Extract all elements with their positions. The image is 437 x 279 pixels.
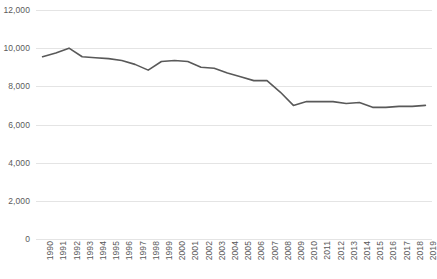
gridline [36,239,432,240]
y-tick-label: 8,000 [8,82,30,91]
x-tick-label: 2003 [218,241,227,260]
x-tick-label: 2018 [416,241,425,260]
x-tick-label: 2016 [389,241,398,260]
x-tick-label: 2005 [244,241,253,260]
y-axis: 12,00010,0008,0006,0004,0002,0000 [0,0,34,279]
x-tick-label: 2001 [191,241,200,260]
y-tick-label: 4,000 [8,158,30,167]
x-axis: 1990199119921993199419951996199719981999… [36,241,432,279]
x-tick-label: 1996 [125,241,134,260]
x-tick-label: 2008 [284,241,293,260]
x-tick-label: 1991 [59,241,68,260]
x-tick-label: 1993 [86,241,95,260]
y-tick-label: 0 [25,235,30,244]
x-tick-label: 2015 [376,241,385,260]
x-tick-label: 2009 [297,241,306,260]
x-tick-label: 1994 [99,241,108,260]
x-tick-label: 2004 [231,241,240,260]
x-tick-label: 2012 [337,241,346,260]
x-tick-label: 2014 [363,241,372,260]
x-tick-label: 1992 [73,241,82,260]
line-chart: 12,00010,0008,0006,0004,0002,0000 199019… [0,0,437,279]
x-tick-label: 2010 [310,241,319,260]
plot-area [36,10,432,239]
y-tick-label: 6,000 [8,120,30,129]
x-tick-label: 2011 [323,241,332,260]
x-tick-label: 1998 [152,241,161,260]
series-layer [36,10,432,239]
x-tick-label: 1995 [112,241,121,260]
y-tick-label: 2,000 [8,197,30,206]
y-tick-label: 12,000 [3,6,30,15]
x-tick-label: 1997 [139,241,148,260]
series-line-series-1 [43,48,426,107]
x-tick-label: 2007 [271,241,280,260]
x-tick-label: 2000 [178,241,187,260]
x-tick-label: 2013 [350,241,359,260]
x-tick-label: 2002 [205,241,214,260]
x-tick-label: 2006 [257,241,266,260]
x-tick-label: 2019 [429,241,437,260]
y-tick-label: 10,000 [3,44,30,53]
x-tick-label: 1999 [165,241,174,260]
x-tick-label: 2017 [403,241,412,260]
x-tick-label: 1990 [46,241,55,260]
